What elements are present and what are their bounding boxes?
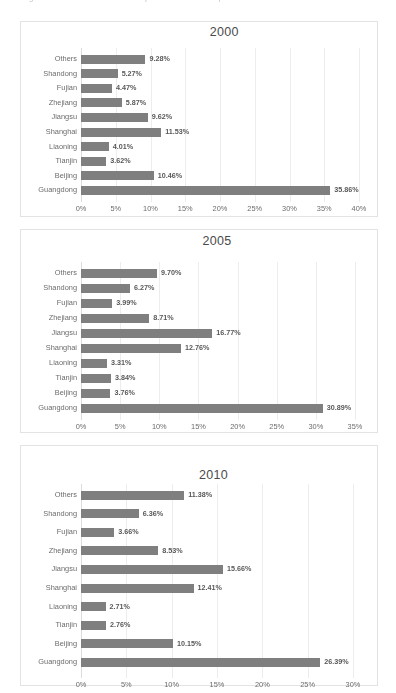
chart-title: 2005	[203, 234, 232, 248]
x-axis-tick-label: 5%	[110, 204, 121, 213]
bar-value-label: 8.53%	[162, 544, 182, 558]
gridline	[255, 48, 256, 202]
bar	[81, 389, 110, 398]
bar	[81, 344, 181, 353]
chart-title: 2000	[210, 25, 239, 39]
gridline	[159, 262, 160, 420]
x-axis-tick-label: 40%	[352, 204, 367, 213]
category-label: Guangdong	[23, 655, 77, 669]
x-axis-tick-label: 0%	[76, 422, 87, 431]
x-axis-tick-label: 30%	[346, 680, 361, 689]
bar	[81, 314, 149, 323]
bar	[81, 509, 139, 518]
bar-value-label: 2.76%	[110, 618, 130, 632]
bar-value-label: 15.66%	[227, 562, 251, 576]
x-axis-tick-label: 5%	[121, 680, 132, 689]
category-label: Liaoning	[23, 140, 77, 154]
bar-value-label: 3.84%	[115, 371, 135, 385]
category-label: Others	[23, 266, 77, 280]
category-label: Jiangsu	[23, 110, 77, 124]
bar	[81, 69, 118, 78]
bar-value-label: 6.27%	[134, 281, 154, 295]
category-label: Others	[23, 52, 77, 66]
bar-value-label: 35.86%	[334, 183, 358, 197]
bar-value-label: 9.28%	[149, 52, 169, 66]
category-label: Shanghai	[23, 125, 77, 139]
bar-value-label: 5.27%	[122, 67, 142, 81]
category-label: Jiangsu	[23, 562, 77, 576]
category-label: Tianjin	[23, 154, 77, 168]
plot-area-2000: 2000Others9.28%Shandong5.27%Fujian4.47%Z…	[21, 22, 377, 216]
x-axis-tick-label: 20%	[230, 422, 245, 431]
bar-value-label: 8.71%	[153, 311, 173, 325]
bar	[81, 299, 112, 308]
bar	[81, 658, 320, 667]
bar-value-label: 3.62%	[110, 154, 130, 168]
gridline	[355, 262, 356, 420]
x-axis-tick-label: 10%	[164, 680, 179, 689]
bar-value-label: 3.76%	[114, 386, 134, 400]
bar	[81, 128, 161, 137]
plot-area-2005: 2005Others9.70%Shandong6.27%Fujian3.99%Z…	[21, 230, 377, 432]
x-axis-tick-label: 35%	[348, 422, 363, 431]
bar-value-label: 12.41%	[198, 581, 222, 595]
category-label: Beijing	[23, 386, 77, 400]
bar	[81, 98, 122, 107]
category-label: Shanghai	[23, 581, 77, 595]
x-axis-tick-label: 25%	[247, 204, 262, 213]
x-axis-tick-label: 25%	[300, 680, 315, 689]
category-label: Fujian	[23, 81, 77, 95]
x-axis-tick-label: 15%	[178, 204, 193, 213]
x-axis-tick-label: 10%	[143, 204, 158, 213]
gridline	[277, 262, 278, 420]
bar	[81, 284, 130, 293]
gridline	[290, 48, 291, 202]
bar-value-label: 10.46%	[158, 169, 182, 183]
gridline	[353, 484, 354, 678]
bar	[81, 602, 106, 611]
category-label: Liaoning	[23, 600, 77, 614]
x-axis-tick-label: 0%	[76, 204, 87, 213]
cut-off-caption-text: Figure 3. Shares of Provincial Exports i…	[22, 0, 237, 2]
x-axis-tick-label: 0%	[76, 680, 87, 689]
x-axis-tick-label: 15%	[210, 680, 225, 689]
bar	[81, 113, 148, 122]
bar-value-label: 30.89%	[327, 401, 351, 415]
category-label: Fujian	[23, 296, 77, 310]
bar	[81, 186, 330, 195]
bar	[81, 528, 114, 537]
figure-page: Figure 3. Shares of Provincial Exports i…	[0, 0, 396, 693]
chart-panel-2000: 2000Others9.28%Shandong5.27%Fujian4.47%Z…	[20, 21, 378, 217]
category-label: Beijing	[23, 169, 77, 183]
bar-value-label: 10.15%	[177, 637, 201, 651]
bar-value-label: 12.76%	[185, 341, 209, 355]
bar-value-label: 3.66%	[118, 525, 138, 539]
plot-area-2010: 2010Others11.38%Shandong6.36%Fujian3.66%…	[21, 446, 377, 685]
bar	[81, 329, 212, 338]
category-label: Shandong	[23, 507, 77, 521]
bar	[81, 374, 111, 383]
chart-title: 2010	[199, 468, 228, 482]
category-label: Jiangsu	[23, 326, 77, 340]
bar-value-label: 11.38%	[188, 488, 212, 502]
category-label: Others	[23, 488, 77, 502]
bar	[81, 639, 173, 648]
category-label: Fujian	[23, 525, 77, 539]
bar	[81, 584, 194, 593]
gridline	[324, 48, 325, 202]
bar	[81, 546, 158, 555]
category-label: Zhejiang	[23, 311, 77, 325]
bar	[81, 491, 184, 500]
bar	[81, 621, 106, 630]
gridline	[359, 48, 360, 202]
bar	[81, 404, 323, 413]
bar-value-label: 6.36%	[143, 507, 163, 521]
bar-value-label: 4.01%	[113, 140, 133, 154]
bar	[81, 269, 157, 278]
bar-value-label: 3.99%	[116, 296, 136, 310]
category-label: Shandong	[23, 281, 77, 295]
gridline	[262, 484, 263, 678]
bar-value-label: 11.53%	[165, 125, 189, 139]
gridline	[308, 484, 309, 678]
x-axis-tick-label: 30%	[282, 204, 297, 213]
